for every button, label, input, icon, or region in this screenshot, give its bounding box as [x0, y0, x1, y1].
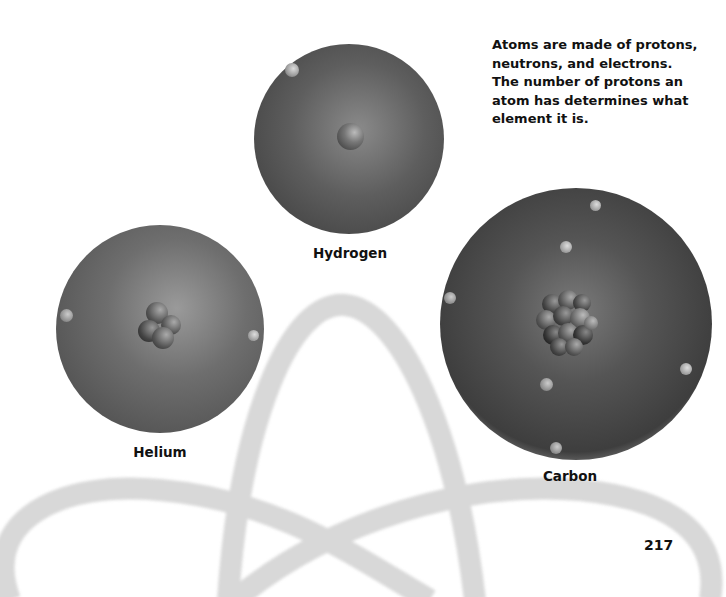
electron-icon: [550, 442, 562, 454]
carbon-atom: [440, 188, 712, 460]
helium-atom: [56, 225, 264, 433]
caption-text: Atoms are made of protons, neutrons, and…: [492, 36, 702, 129]
electron-icon: [60, 309, 73, 322]
electron-icon: [590, 200, 601, 211]
proton-icon: [152, 327, 174, 349]
electron-icon: [680, 363, 692, 375]
electron-icon: [285, 63, 299, 77]
electron-icon: [444, 292, 456, 304]
neutron-icon: [584, 316, 598, 330]
nucleus-icon: [337, 123, 364, 150]
page-number: 217: [644, 537, 673, 553]
proton-icon: [565, 338, 583, 356]
atom-label-carbon: Carbon: [510, 468, 630, 484]
hydrogen-atom: [254, 44, 444, 234]
electron-icon: [248, 330, 259, 341]
electron-icon: [540, 378, 553, 391]
atom-label-helium: Helium: [100, 444, 220, 460]
electron-icon: [560, 241, 572, 253]
atom-label-hydrogen: Hydrogen: [290, 245, 410, 261]
